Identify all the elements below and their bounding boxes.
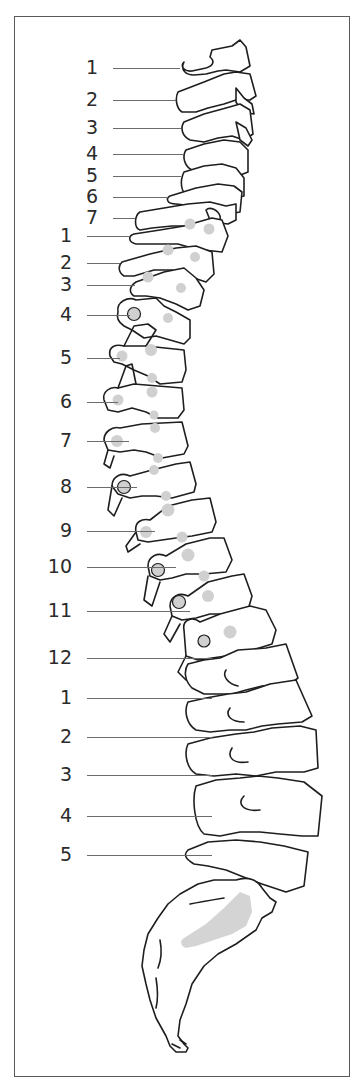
sacrum	[142, 878, 276, 1052]
leader-t3	[87, 285, 135, 286]
label-t12: 12	[36, 648, 72, 667]
label-t9: 9	[36, 521, 72, 540]
leader-t1	[87, 236, 130, 237]
label-t2: 2	[36, 253, 72, 272]
leader-t11	[87, 611, 190, 612]
label-t5: 5	[36, 348, 72, 367]
label-c3: 3	[62, 118, 98, 137]
leader-t7	[87, 441, 129, 442]
vertebra-l4	[194, 776, 322, 836]
leader-t4	[87, 315, 130, 316]
label-l4: 4	[36, 806, 72, 825]
leader-t12	[87, 658, 212, 659]
label-l5: 5	[36, 845, 72, 864]
vertebra-l3	[186, 726, 318, 776]
label-t3: 3	[36, 275, 72, 294]
label-l3: 3	[36, 765, 72, 784]
label-c4: 4	[62, 144, 98, 163]
label-t4: 4	[36, 305, 72, 324]
label-l2: 2	[36, 727, 72, 746]
label-c2: 2	[62, 90, 98, 109]
label-c1: 1	[62, 58, 98, 77]
leader-t2	[87, 263, 120, 264]
leader-t8	[87, 487, 137, 488]
leader-t5	[87, 358, 120, 359]
vertebra-c1	[182, 40, 250, 75]
label-t1: 1	[36, 226, 72, 245]
leader-c1	[113, 68, 180, 69]
label-t8: 8	[36, 477, 72, 496]
label-t7: 7	[36, 431, 72, 450]
leader-l3	[87, 775, 212, 776]
label-t11: 11	[36, 601, 72, 620]
leader-c2	[113, 100, 176, 101]
leader-c7	[113, 218, 135, 219]
label-t10: 10	[36, 557, 72, 576]
leader-l5	[87, 855, 212, 856]
leader-t6	[87, 402, 118, 403]
label-l1: 1	[36, 688, 72, 707]
leader-c4	[113, 154, 184, 155]
label-c6: 6	[62, 187, 98, 206]
leader-l2	[87, 737, 212, 738]
spine-illustration	[0, 0, 361, 1090]
leader-l4	[87, 816, 212, 817]
leader-t9	[87, 531, 155, 532]
leader-l1	[87, 698, 212, 699]
leader-t10	[87, 567, 176, 568]
leader-c6	[113, 197, 168, 198]
leader-c5	[113, 176, 181, 177]
label-c5: 5	[62, 166, 98, 185]
label-t6: 6	[36, 392, 72, 411]
leader-c3	[113, 128, 181, 129]
